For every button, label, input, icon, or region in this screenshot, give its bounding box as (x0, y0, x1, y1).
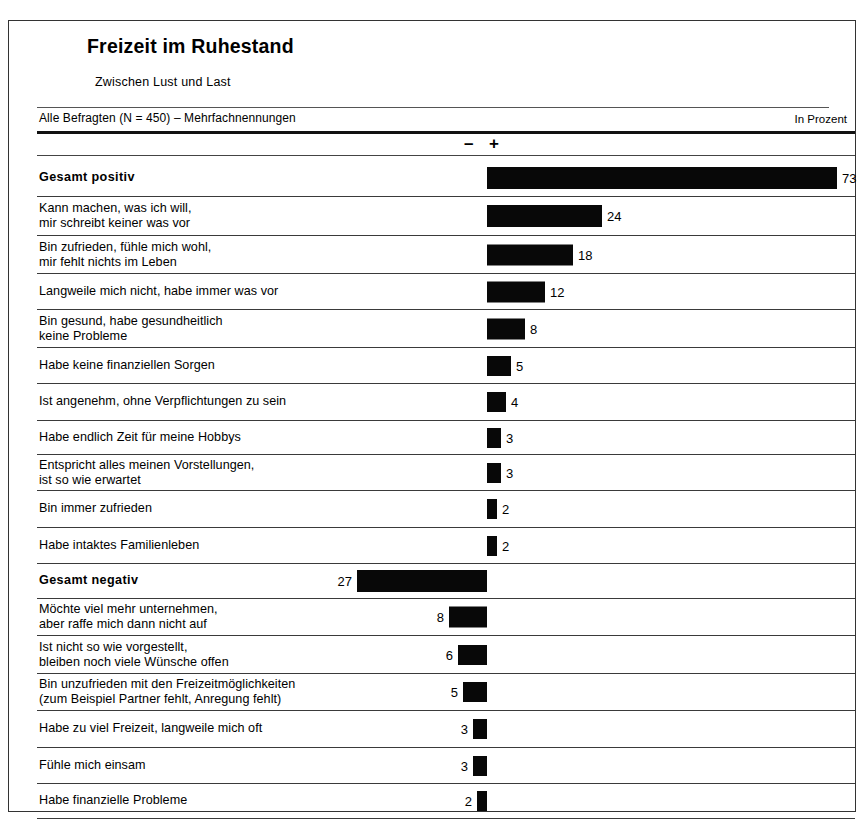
chart-row: Gesamt negativ27 (37, 564, 855, 599)
row-label: Möchte viel mehr unternehmen, aber raffe… (39, 602, 218, 633)
bar-neg (357, 570, 487, 592)
chart-row: Habe zu viel Freizeit, langweile mich of… (37, 711, 855, 748)
row-label: Langweile mich nicht, habe immer was vor (39, 284, 278, 299)
bar-pos (487, 536, 497, 556)
chart-subtitle: Zwischen Lust und Last (95, 75, 231, 89)
row-label: Habe finanzielle Probleme (39, 793, 187, 808)
row-label: Ist angenehm, ohne Verpflichtungen zu se… (39, 394, 286, 409)
minus-sign-icon: – (464, 135, 473, 152)
row-label: Bin immer zufrieden (39, 501, 152, 516)
chart-row: Bin unzufrieden mit den Freizeitmöglichk… (37, 674, 855, 711)
row-label: Bin gesund, habe gesundheitlich keine Pr… (39, 313, 223, 344)
row-label: Gesamt positiv (39, 170, 135, 185)
row-label: Habe keine finanziellen Sorgen (39, 358, 215, 373)
chart-row: Gesamt positiv73 (37, 159, 855, 197)
bar-pos (487, 428, 501, 448)
bar-value: 8 (530, 321, 537, 336)
plus-sign-icon: + (489, 135, 499, 152)
bar-value: 5 (441, 685, 458, 700)
bar-pos (487, 356, 511, 376)
bar-value: 2 (455, 794, 472, 809)
chart-rows: Gesamt positiv73Kann machen, was ich wil… (9, 155, 855, 811)
bar-value: 2 (502, 502, 509, 517)
chart-row: Bin gesund, habe gesundheitlich keine Pr… (37, 310, 855, 348)
chart-row: Langweile mich nicht, habe immer was vor… (37, 274, 855, 310)
bar-value: 27 (335, 574, 352, 589)
chart-row: Habe endlich Zeit für meine Hobbys3 (37, 421, 855, 455)
chart-row: Habe intaktes Familienleben2 (37, 528, 855, 564)
row-label: Habe zu viel Freizeit, langweile mich of… (39, 721, 262, 736)
bar-pos (487, 281, 545, 302)
row-label: Ist nicht so wie vorgestellt, bleiben no… (39, 639, 229, 670)
chart-row: Entspricht alles meinen Vorstellungen, i… (37, 455, 855, 491)
bar-pos (487, 318, 525, 339)
bar-value: 3 (451, 758, 468, 773)
chart-row: Habe keine finanziellen Sorgen5 (37, 348, 855, 384)
bar-value: 3 (506, 430, 513, 445)
bar-value: 3 (451, 722, 468, 737)
row-label: Fühle mich einsam (39, 758, 146, 773)
page-title: Freizeit im Ruhestand (87, 35, 294, 58)
bar-pos (487, 205, 602, 227)
bar-value: 3 (506, 465, 513, 480)
base-note: Alle Befragten (N = 450) – Mehrfachnennu… (39, 111, 296, 125)
bar-value: 73 (842, 170, 856, 185)
unit-label: In Prozent (795, 113, 847, 125)
bar-pos (487, 392, 506, 412)
bar-value: 12 (550, 284, 564, 299)
chart-row: Habe finanzielle Probleme2 (37, 784, 855, 819)
row-label: Gesamt negativ (39, 573, 138, 588)
row-label: Bin unzufrieden mit den Freizeitmöglichk… (39, 677, 295, 708)
bar-pos (487, 499, 497, 519)
bar-pos (487, 244, 573, 265)
chart-row: Ist angenehm, ohne Verpflichtungen zu se… (37, 384, 855, 421)
chart-frame: Freizeit im Ruhestand Zwischen Lust und … (8, 20, 856, 812)
chart-row: Bin zufrieden, fühle mich wohl, mir fehl… (37, 236, 855, 274)
chart-row: Kann machen, was ich will, mir schreibt … (37, 197, 855, 236)
bar-neg (449, 607, 487, 628)
row-label: Habe intaktes Familienleben (39, 538, 199, 553)
bar-neg (458, 645, 487, 665)
bar-neg (473, 719, 487, 739)
chart-row: Bin immer zufrieden2 (37, 491, 855, 528)
bar-value: 5 (516, 358, 523, 373)
bar-neg (473, 756, 487, 776)
bar-value: 18 (578, 247, 592, 262)
bar-value: 8 (427, 610, 444, 625)
bar-pos (487, 463, 501, 483)
axis-sign-row: – + (9, 133, 855, 155)
row-label: Entspricht alles meinen Vorstellungen, i… (39, 457, 254, 488)
chart-header: Freizeit im Ruhestand Zwischen Lust und … (9, 21, 855, 129)
bar-value: 24 (607, 209, 621, 224)
divider-above-base-note (37, 107, 829, 108)
bar-value: 6 (436, 647, 453, 662)
chart-row: Fühle mich einsam3 (37, 748, 855, 784)
row-label: Bin zufrieden, fühle mich wohl, mir fehl… (39, 239, 211, 270)
bar-neg (463, 682, 487, 702)
row-label: Kann machen, was ich will, mir schreibt … (39, 201, 192, 232)
bar-value: 2 (502, 538, 509, 553)
bar-neg (477, 791, 487, 811)
row-label: Habe endlich Zeit für meine Hobbys (39, 430, 241, 445)
bar-pos (487, 167, 837, 189)
chart-row: Ist nicht so wie vorgestellt, bleiben no… (37, 636, 855, 674)
bar-value: 4 (511, 395, 518, 410)
chart-row: Möchte viel mehr unternehmen, aber raffe… (37, 599, 855, 636)
